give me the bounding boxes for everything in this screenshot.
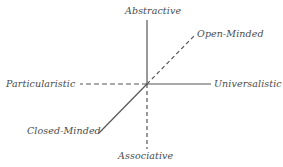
label-closed-minded: Closed-Minded [27,126,101,136]
axis-closed-minded-solid [99,84,147,133]
axis-open-minded-dashed [147,35,195,84]
label-particularistic: Particularistic [6,79,75,89]
three-axis-diagram: Abstractive Open-Minded Particularistic … [0,0,283,167]
label-universalistic: Universalistic [214,79,282,89]
label-open-minded: Open-Minded [197,29,264,39]
label-associative: Associative [118,151,173,161]
label-abstractive: Abstractive [125,6,181,16]
